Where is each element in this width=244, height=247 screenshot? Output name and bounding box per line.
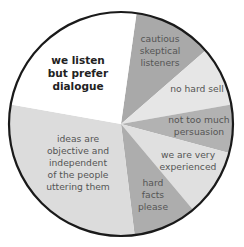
slice-label: we listenbut preferdialogue xyxy=(48,54,109,92)
slice-label: cautiousskepticallisteners xyxy=(140,33,181,68)
slice-label: not too muchpersuasion xyxy=(168,114,230,137)
pie-chart: cautiousskepticallistenersno hard sellno… xyxy=(0,0,244,247)
slice-label: no hard sell xyxy=(170,83,224,94)
slice-label: we are veryexperienced xyxy=(160,149,217,172)
